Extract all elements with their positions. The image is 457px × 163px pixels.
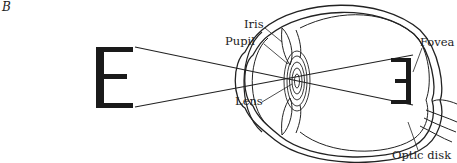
light-rays: [135, 47, 413, 107]
lens-label: Lens: [235, 94, 263, 108]
iris-label: Iris: [244, 17, 264, 31]
object-letter-e: [96, 47, 133, 108]
optic-disk-label: Optic disk: [392, 148, 451, 162]
leader-lines: [262, 28, 422, 150]
retinal-image: [391, 58, 411, 104]
fovea-label: Fovea: [420, 35, 454, 49]
pupil-label: Pupil: [225, 34, 255, 48]
eye-diagram: [0, 0, 457, 163]
